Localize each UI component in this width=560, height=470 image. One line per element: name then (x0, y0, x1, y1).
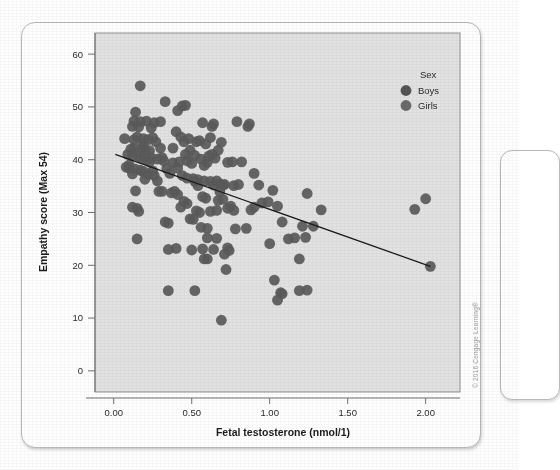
data-point (132, 234, 143, 245)
data-point (267, 185, 278, 196)
data-point (160, 96, 171, 107)
data-point (420, 193, 431, 204)
legend-title: Sex (420, 69, 437, 80)
data-point (219, 179, 230, 190)
data-point (197, 117, 208, 128)
data-point (168, 143, 179, 154)
data-point (133, 122, 144, 133)
data-point (221, 264, 232, 275)
data-point (228, 205, 239, 216)
data-point (155, 116, 166, 127)
data-point (154, 186, 165, 197)
y-tick-label: 50 (72, 101, 83, 112)
data-point (277, 217, 288, 228)
x-tick-label: 2.00 (416, 407, 435, 418)
data-point (197, 244, 208, 255)
x-tick-label: 1.00 (260, 407, 279, 418)
data-point (172, 163, 183, 174)
data-point (199, 254, 210, 265)
data-point (208, 244, 219, 255)
data-point (302, 188, 313, 199)
x-axis-title: Fetal testosterone (nmol/1) (216, 426, 350, 438)
data-point (189, 285, 200, 296)
data-point (203, 151, 214, 162)
data-point (138, 138, 149, 149)
data-point (241, 223, 252, 234)
y-tick-label: 0 (78, 365, 83, 376)
data-point (409, 204, 420, 215)
data-point (216, 315, 227, 326)
data-point (127, 169, 138, 180)
data-point (133, 206, 144, 217)
data-point (185, 213, 196, 224)
data-point (202, 232, 213, 243)
data-point (199, 160, 210, 171)
data-point (232, 116, 243, 127)
x-tick-label: 1.50 (338, 407, 357, 418)
data-point (155, 143, 166, 154)
y-tick-label: 40 (72, 154, 83, 165)
legend-swatch-boys (401, 85, 412, 96)
x-tick-label: 0.50 (182, 407, 201, 418)
legend-label-girls: Girls (418, 100, 438, 111)
data-point (300, 232, 311, 243)
data-point (208, 118, 219, 129)
data-point (264, 238, 275, 249)
data-point (263, 197, 274, 208)
data-point (316, 204, 327, 215)
data-point (249, 168, 260, 179)
legend-swatch-girls (401, 100, 412, 111)
data-point (233, 179, 244, 190)
data-point (157, 152, 168, 163)
data-point (302, 285, 313, 296)
data-point (186, 158, 197, 169)
data-point (236, 156, 247, 167)
x-tick-label: 0.00 (104, 407, 123, 418)
data-point (227, 156, 238, 167)
data-point (272, 201, 283, 212)
data-point (135, 80, 146, 91)
data-point (175, 202, 186, 213)
data-point (197, 191, 208, 202)
data-point (211, 205, 222, 216)
data-point (140, 174, 151, 185)
data-point (200, 138, 211, 149)
data-point (180, 100, 191, 111)
data-point (253, 180, 264, 191)
data-point (186, 245, 197, 256)
data-point (294, 254, 305, 265)
legend-label-boys: Boys (418, 85, 439, 96)
data-point (146, 123, 157, 134)
data-point (130, 107, 141, 118)
data-point (230, 223, 241, 234)
data-point (224, 245, 235, 256)
data-point (129, 134, 140, 145)
data-point (171, 243, 182, 254)
data-point (196, 222, 207, 233)
data-point (211, 233, 222, 244)
data-point (130, 185, 141, 196)
y-tick-label: 30 (72, 207, 83, 218)
data-point (166, 188, 177, 199)
data-point (269, 275, 280, 286)
data-point (160, 217, 171, 228)
copyright-notice: © 2016 Cengage Learning® (472, 302, 480, 388)
data-point (152, 175, 163, 186)
y-tick-label: 10 (72, 312, 83, 323)
data-point (163, 285, 174, 296)
data-point (277, 288, 288, 299)
data-point (119, 133, 130, 144)
y-tick-label: 20 (72, 260, 83, 271)
data-point (289, 232, 300, 243)
y-axis-title: Empathy score (Max 54) (37, 152, 49, 272)
data-point (147, 132, 158, 143)
y-tick-label: 60 (72, 49, 83, 60)
data-point (244, 118, 255, 129)
